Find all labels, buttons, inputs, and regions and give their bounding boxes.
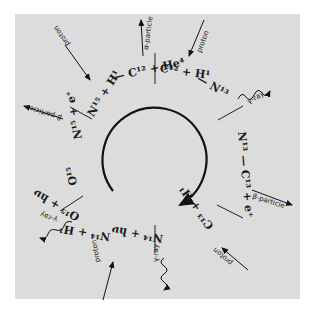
step-o15-n15: O¹⁵ N¹⁵ + e⁺ β-particle [24,89,85,186]
label-n14-h1: N¹⁴ + H¹ [58,222,111,244]
step-n13-c13: N¹³ — C¹³ + e⁺ β-particle [235,131,292,218]
proton-arrow-icon [65,45,90,80]
step-n15-h1: N¹⁵ + H¹ proton [52,24,123,119]
label-gamma-1: γ-ray [246,90,266,106]
step-c13-h1: C¹³ + H¹ proton [177,183,248,270]
cn-cycle-diagram: — C¹² + He⁴ α-particle C¹² + H¹ proton —… [0,0,315,316]
label-gamma-2: γ-ray [152,244,160,262]
label-n13-c13: N¹³ — C¹³ + e⁺ [235,131,255,218]
label-n14-hv: N¹⁴ + hν [110,223,164,245]
label-n15-e: N¹⁵ + e⁺ [63,89,84,140]
label-n13: — N¹³ [194,72,231,101]
label-n15-h1: N¹⁵ + H¹ [85,68,124,119]
label-proton-4: proton [52,24,72,47]
step-n14-hv: N¹⁴ + hν γ-ray [110,223,167,290]
gamma-wave-icon [161,258,167,290]
step-n13-hv: γ-ray [238,90,270,106]
label-beta-1: β-particle [251,192,285,210]
proton-arrow-icon [103,262,113,300]
step-n14-h1: N¹⁴ + H¹ proton [58,222,113,300]
label-beta-2: β-particle [28,104,62,122]
label-alpha-particle: α-particle [142,16,155,50]
label-proton-1: proton [195,29,210,53]
label-o15: O¹⁵ [64,165,80,186]
